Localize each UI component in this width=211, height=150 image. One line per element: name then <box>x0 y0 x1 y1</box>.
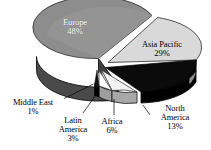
pie-chart: Europe 48% Asia Pacific 29% North Americ… <box>0 0 211 150</box>
slice-label-north-america-value: 13% <box>146 122 204 131</box>
slice-label-north-america: North America 13% <box>146 104 204 130</box>
slice-label-asia-pacific-value: 29% <box>126 49 198 58</box>
slice-label-middle-east-value: 1% <box>2 107 64 116</box>
slice-label-europe-value: 48% <box>42 27 108 36</box>
slice-side-middle-east <box>95 85 100 98</box>
slice-label-asia-pacific: Asia Pacific 29% <box>126 40 198 58</box>
slice-label-europe: Europe 48% <box>42 18 108 36</box>
slice-label-middle-east: Middle East 1% <box>2 98 64 116</box>
slice-label-africa: Africa 6% <box>92 117 132 135</box>
slice-label-latin-america: Latin America 3% <box>50 116 96 142</box>
slice-side-africa <box>112 91 137 104</box>
slice-label-africa-value: 6% <box>92 126 132 135</box>
slice-label-latin-america-value: 3% <box>50 134 96 143</box>
